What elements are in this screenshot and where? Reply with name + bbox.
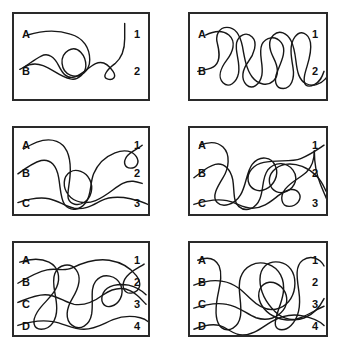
panel-4-label-right-3: 3 [312, 198, 318, 209]
panel-4-label-left-c: C [198, 198, 206, 209]
panel-3-label-left-a: A [22, 140, 30, 151]
panel-5: A B C D 1 2 3 4 [12, 241, 150, 337]
strand-c [194, 282, 324, 320]
strand-a [24, 140, 142, 205]
panel-6-label-left-c: C [198, 299, 206, 310]
panel-5-label-left-d: D [22, 321, 30, 332]
panel-4-label-left-a: A [198, 140, 206, 151]
panel-6-label-right-1: 1 [312, 255, 318, 266]
panel-3-label-left-b: B [22, 168, 30, 179]
strand-b [18, 145, 142, 209]
panel-1-label-left-b: B [22, 66, 30, 77]
panel-6-label-right-2: 2 [312, 277, 318, 288]
panel-1-strands [14, 14, 148, 99]
panel-4: A B C 1 2 3 [188, 126, 328, 216]
panel-1-label-right-2: 2 [134, 66, 140, 77]
panel-2-strands [190, 14, 326, 99]
panel-3-label-right-3: 3 [134, 198, 140, 209]
panel-5-label-right-1: 1 [134, 255, 140, 266]
panel-4-label-right-2: 2 [312, 168, 318, 179]
panel-3-strands [14, 128, 148, 214]
strand-a [20, 259, 146, 329]
panel-3-label-left-c: C [22, 198, 30, 209]
strand-a-1 [206, 31, 325, 88]
strand-group [20, 24, 125, 80]
panel-5-label-right-3: 3 [134, 299, 140, 310]
panel-2-label-right-2: 2 [312, 66, 318, 77]
panel-6-label-left-b: B [198, 277, 206, 288]
panel-2-label-left-b: B [198, 66, 206, 77]
panel-4-label-right-1: 1 [312, 140, 318, 151]
strand-group [194, 257, 324, 335]
panel-6-label-left-a: A [198, 255, 206, 266]
panel-6: A B C D 1 2 3 4 [188, 241, 328, 337]
panel-5-label-right-4: 4 [134, 321, 140, 332]
panel-2-label-left-a: A [198, 29, 206, 40]
panel-3: A B C 1 2 3 [12, 126, 150, 216]
strand-group [18, 140, 148, 209]
panel-3-label-right-2: 2 [134, 168, 140, 179]
panel-6-strands [190, 243, 326, 335]
panel-5-label-left-b: B [22, 277, 30, 288]
panel-2-label-right-1: 1 [312, 29, 318, 40]
panel-5-label-left-c: C [22, 299, 30, 310]
strand-b-2 [20, 24, 125, 80]
strand-b [194, 164, 326, 210]
strand-b [18, 260, 144, 293]
strand-group [198, 27, 326, 88]
strand-group [18, 259, 148, 329]
strand-a-1 [24, 31, 90, 79]
strand-c [18, 289, 146, 305]
strand-group [194, 143, 326, 210]
panel-3-label-right-1: 1 [134, 140, 140, 151]
panel-2: A B 1 2 [188, 12, 328, 101]
panel-1-label-left-a: A [22, 29, 30, 40]
panel-6-label-right-3: 3 [312, 299, 318, 310]
panel-6-label-left-d: D [198, 321, 206, 332]
panel-5-strands [14, 243, 148, 335]
panel-4-label-left-b: B [198, 168, 206, 179]
panel-6-label-right-4: 4 [312, 321, 318, 332]
panel-5-label-right-2: 2 [134, 277, 140, 288]
panel-4-strands [190, 128, 326, 214]
panel-1: A B 1 2 [12, 12, 150, 101]
tangled-lines-figure: A B 1 2 A B 1 2 A B C 1 2 3 [0, 0, 343, 348]
panel-5-label-left-a: A [22, 255, 30, 266]
panel-1-label-right-1: 1 [134, 29, 140, 40]
